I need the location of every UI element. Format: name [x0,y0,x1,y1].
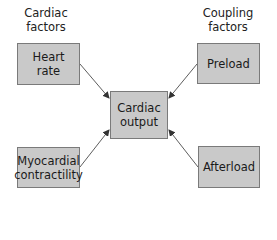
preload-label: Preload [207,57,250,71]
afterload-label: Afterload [203,160,255,174]
heart-rate-line1: Heart [32,50,64,64]
cardiac-output-box: Cardiac output [110,91,168,139]
afterload-box: Afterload [198,146,260,188]
cardiac-output-line1: Cardiac [117,101,160,115]
cardiac-output-line2: output [117,115,160,129]
arrow-afterload [169,130,198,167]
heart-rate-line2: rate [32,64,64,78]
preload-box: Preload [197,43,260,84]
arrow-heart-rate [80,64,109,98]
arrow-contractility [80,130,109,167]
contractility-line2: contractility [14,168,83,182]
arrow-preload [169,64,197,98]
contractility-box: Myocardial contractility [17,147,80,188]
heart-rate-box: Heart rate [17,43,80,85]
contractility-line1: Myocardial [14,154,83,168]
